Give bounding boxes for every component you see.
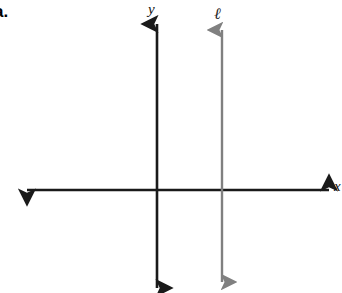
- figure-canvas: a. y x ℓ: [0, 0, 342, 293]
- line-l-label: ℓ: [214, 5, 221, 23]
- x-axis-label: x: [334, 178, 341, 195]
- y-axis-label: y: [148, 1, 155, 18]
- coordinate-plane-graphic: [0, 0, 342, 293]
